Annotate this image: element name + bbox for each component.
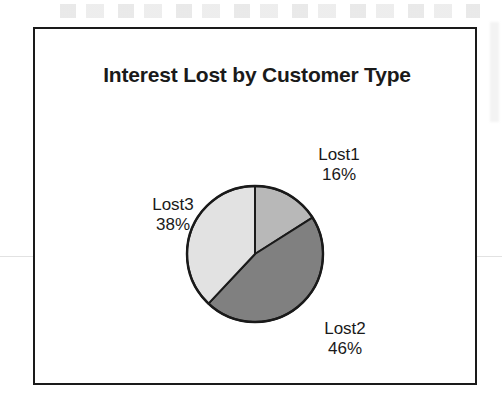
pie-chart-svg — [35, 29, 479, 387]
pie-label-lost1-value: 16% — [297, 165, 381, 185]
pie-label-lost3-value: 38% — [131, 215, 215, 235]
scan-artifact-right-edge — [490, 22, 499, 122]
pie-label-lost3: Lost3 38% — [131, 195, 215, 235]
pie-label-lost1-name: Lost1 — [297, 145, 381, 165]
chart-frame: Interest Lost by Customer Type Lost1 16%… — [33, 27, 477, 385]
pie-label-lost2: Lost2 46% — [303, 319, 387, 359]
pie-chart: Lost1 16% Lost3 38% Lost2 46% — [35, 29, 479, 387]
scan-artifact-top-bleed — [60, 4, 480, 18]
pie-label-lost1: Lost1 16% — [297, 145, 381, 185]
pie-label-lost2-value: 46% — [303, 339, 387, 359]
pie-label-lost3-name: Lost3 — [131, 195, 215, 215]
pie-label-lost2-name: Lost2 — [303, 319, 387, 339]
